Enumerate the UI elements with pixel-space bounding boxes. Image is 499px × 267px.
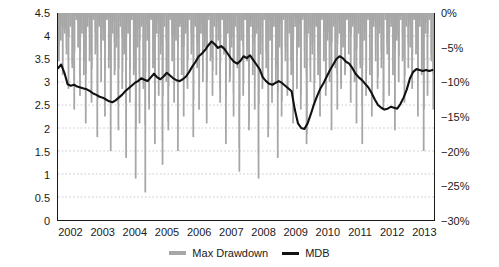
y-right-tick-label: −10% [441,76,499,88]
legend-item-mdb: MDB [282,247,329,259]
y-left-tick-label: 4 [2,30,50,42]
plot-inner [58,13,434,220]
y-left-tick-label: 0.5 [2,192,50,204]
y-left-tick-label: 4.5 [2,7,50,19]
legend-label-mdb: MDB [305,247,329,259]
y-left-tick-label: 3.5 [2,53,50,65]
chart-canvas [58,13,434,220]
y-left-tick-label: 2 [2,123,50,135]
y-right-tick-label: −5% [441,42,499,54]
plot-area [57,13,435,221]
x-tick-label: 2013 [404,226,444,238]
y-right-tick-label: −25% [441,180,499,192]
legend-item-max-drawdown: Max Drawdown [169,247,268,259]
y-right-tick-label: 0% [441,7,499,19]
chart-legend: Max Drawdown MDB [0,243,499,263]
y-left-tick-label: 3 [2,76,50,88]
y-left-tick-label: 1 [2,169,50,181]
y-left-tick-label: 1.5 [2,146,50,158]
y-right-tick-label: −15% [441,111,499,123]
area-swatch-icon [169,251,186,255]
line-swatch-icon [282,252,299,255]
y-left-tick-label: 0 [2,215,50,227]
y-right-tick-label: −20% [441,146,499,158]
y-left-tick-label: 2.5 [2,99,50,111]
chart-container: 00.511.522.533.544.5 0%−5%−10%−15%−20%−2… [0,0,499,267]
legend-label-max-drawdown: Max Drawdown [192,247,268,259]
y-right-tick-label: −30% [441,215,499,227]
